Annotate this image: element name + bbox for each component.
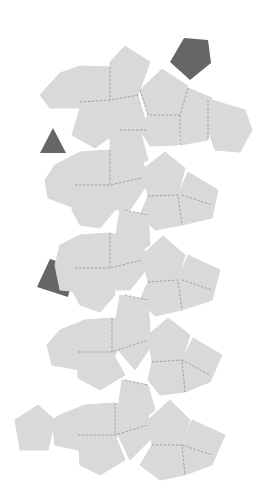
dark-pentagon-piece (170, 38, 211, 80)
net-strip-5 (15, 400, 225, 480)
polyhedron-net-diagram (0, 0, 275, 503)
net-strip-4 (47, 318, 222, 422)
net-strip-1 (40, 46, 252, 170)
dark-triangle-piece (40, 128, 66, 153)
